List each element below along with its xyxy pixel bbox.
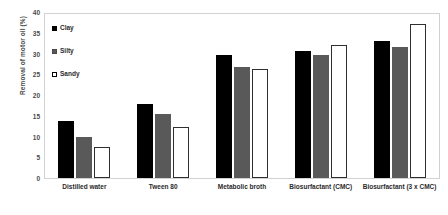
y-axis-tick-label: 25 [22, 72, 40, 79]
x-axis-category-labels: Distilled waterTween 80Metabolic brothBi… [45, 184, 439, 191]
bar-silty [392, 47, 408, 178]
bar-clay [295, 51, 311, 178]
bar-chart: Removal of motor oil (%) 403530252015105… [0, 0, 448, 215]
bar-group [203, 14, 282, 178]
bar-silty [155, 114, 171, 178]
bar-clay [374, 41, 390, 178]
bar-silty [76, 137, 92, 178]
bar-groups [45, 14, 439, 178]
bar-clay [58, 121, 74, 178]
y-axis-tick-label: 15 [22, 114, 40, 121]
bar-sandy [252, 69, 268, 178]
y-axis-tick-label: 40 [22, 10, 40, 17]
plot-area [45, 14, 439, 178]
bar-clay [216, 55, 232, 178]
x-axis-category-label: Biosurfactant (3 x CMC) [360, 184, 439, 191]
bar-clay [137, 104, 153, 178]
y-axis-tick-label: 35 [22, 31, 40, 38]
bar-sandy [173, 127, 189, 178]
bar-silty [313, 55, 329, 178]
y-axis-tick-label: 5 [22, 155, 40, 162]
bar-group [281, 14, 360, 178]
bar-group [45, 14, 124, 178]
bar-silty [234, 67, 250, 178]
bar-sandy [410, 24, 426, 178]
bar-sandy [94, 147, 110, 178]
bar-sandy [331, 45, 347, 178]
x-axis-category-label: Tween 80 [124, 184, 203, 191]
y-axis-tick-label: 20 [22, 93, 40, 100]
y-axis-tick-label: 10 [22, 134, 40, 141]
x-axis-category-label: Biosurfactant (CMC) [281, 184, 360, 191]
x-axis-category-label: Metabolic broth [203, 184, 282, 191]
y-axis-tick-label: 0 [22, 176, 40, 183]
y-axis-tick-labels: 4035302520151050 [22, 13, 40, 179]
bar-group [124, 14, 203, 178]
bar-group [360, 14, 439, 178]
y-axis-tick-label: 30 [22, 51, 40, 58]
x-axis-category-label: Distilled water [45, 184, 124, 191]
